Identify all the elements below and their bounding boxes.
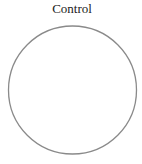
circle-diagram	[0, 0, 142, 164]
control-circle	[9, 26, 137, 154]
